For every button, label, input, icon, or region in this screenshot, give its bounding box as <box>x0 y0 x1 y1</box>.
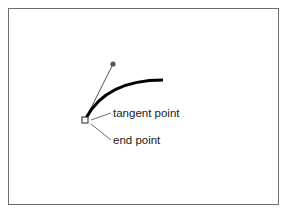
end-leader-line <box>91 124 111 140</box>
tangent-handle-dot <box>110 61 115 66</box>
tangent-leader-line <box>91 113 111 120</box>
end-point-anchor <box>82 117 88 123</box>
bezier-diagram <box>0 0 291 212</box>
end-point-label: end point <box>113 135 160 147</box>
tangent-point-label: tangent point <box>113 108 180 120</box>
